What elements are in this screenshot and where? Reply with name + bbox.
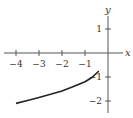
curve-line	[16, 71, 99, 103]
chart: −4−3−2−1 1−1−2 x y	[0, 0, 133, 118]
y-axis-label: y	[104, 4, 111, 15]
x-axis-label: x	[125, 47, 131, 58]
x-tick-label: −3	[32, 59, 46, 69]
y-tick-label: 1	[96, 24, 102, 34]
x-tick-label: −2	[55, 59, 68, 69]
x-tick-label: −4	[9, 59, 23, 69]
y-tick-label: −2	[89, 96, 102, 106]
x-tick-label: −1	[78, 59, 91, 69]
